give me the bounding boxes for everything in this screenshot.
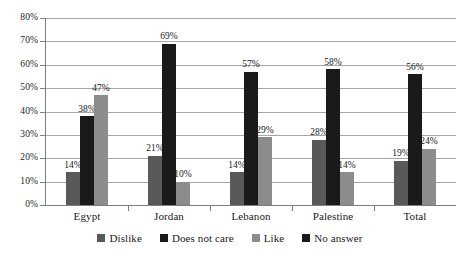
bar — [244, 72, 258, 205]
bar — [422, 149, 436, 205]
bar-group: 28%58%14% — [292, 18, 374, 205]
legend-item-label: Does not care — [172, 233, 234, 244]
x-axis-category-label: Jordan — [128, 211, 210, 222]
bar — [340, 172, 354, 205]
bar — [66, 172, 80, 205]
legend-swatch-icon — [97, 234, 105, 242]
bar — [176, 182, 190, 205]
bar — [326, 69, 340, 205]
bar-value-label: 57% — [236, 60, 266, 70]
bar — [162, 44, 176, 205]
y-axis-tick-label: 40% — [0, 107, 38, 117]
bar — [394, 161, 408, 205]
bar-value-label: 10% — [168, 170, 198, 180]
y-axis-labels: 0%10%20%30%40%50%60%70%80% — [0, 0, 38, 263]
bar-group: 14%38%47% — [46, 18, 128, 205]
bar-value-label: 69% — [154, 32, 184, 42]
legend-swatch-icon — [160, 234, 168, 242]
legend-item-label: Dislike — [109, 233, 141, 244]
bar-group: 14%57%29% — [210, 18, 292, 205]
y-axis-tick-mark — [40, 205, 45, 206]
y-axis-tick-mark — [40, 88, 45, 89]
y-axis-tick-label: 50% — [0, 83, 38, 93]
legend-item-label: Like — [264, 233, 285, 244]
y-axis-tick-label: 0% — [0, 200, 38, 210]
bar — [94, 95, 108, 205]
x-axis-line — [45, 205, 456, 206]
legend-item[interactable]: No answer — [302, 233, 362, 244]
y-axis-tick-mark — [40, 112, 45, 113]
x-axis-category-label: Egypt — [46, 211, 128, 222]
y-axis-tick-mark — [40, 18, 45, 19]
bar — [230, 172, 244, 205]
x-axis-category-label: Palestine — [292, 211, 374, 222]
bar-value-label: 29% — [250, 126, 280, 136]
y-axis-tick-mark — [40, 158, 45, 159]
legend-swatch-icon — [302, 234, 310, 242]
bar — [148, 156, 162, 205]
bar — [312, 140, 326, 205]
y-axis-tick-label: 70% — [0, 36, 38, 46]
x-axis-category-label: Lebanon — [210, 211, 292, 222]
bar-group: 19%56%24% — [374, 18, 456, 205]
chart-legend: DislikeDoes not careLikeNo answer — [0, 230, 460, 246]
bar-group: 21%69%10% — [128, 18, 210, 205]
y-axis-tick-mark — [40, 41, 45, 42]
bar-value-label: 47% — [86, 84, 116, 94]
legend-item[interactable]: Like — [252, 233, 285, 244]
bar-chart: 0%10%20%30%40%50%60%70%80% 14%38%47%21%6… — [0, 0, 460, 263]
x-axis-category-label: Total — [374, 211, 456, 222]
bar-value-label: 24% — [414, 137, 444, 147]
legend-swatch-icon — [252, 234, 260, 242]
legend-item[interactable]: Dislike — [97, 233, 141, 244]
bar-value-label: 56% — [400, 63, 430, 73]
y-axis-tick-mark — [40, 135, 45, 136]
legend-item-label: No answer — [314, 233, 362, 244]
y-axis-tick-label: 10% — [0, 177, 38, 187]
y-axis-tick-mark — [40, 182, 45, 183]
bar-value-label: 14% — [332, 161, 362, 171]
plot-area: 14%38%47%21%69%10%14%57%29%28%58%14%19%5… — [46, 18, 456, 205]
y-axis-tick-label: 60% — [0, 60, 38, 70]
y-axis-line — [45, 18, 46, 206]
y-axis-tick-label: 20% — [0, 153, 38, 163]
legend-item[interactable]: Does not care — [160, 233, 234, 244]
bar — [80, 116, 94, 205]
bar — [258, 137, 272, 205]
y-axis-tick-label: 80% — [0, 13, 38, 23]
y-axis-tick-mark — [40, 65, 45, 66]
y-axis-tick-label: 30% — [0, 130, 38, 140]
bar-value-label: 58% — [318, 58, 348, 68]
